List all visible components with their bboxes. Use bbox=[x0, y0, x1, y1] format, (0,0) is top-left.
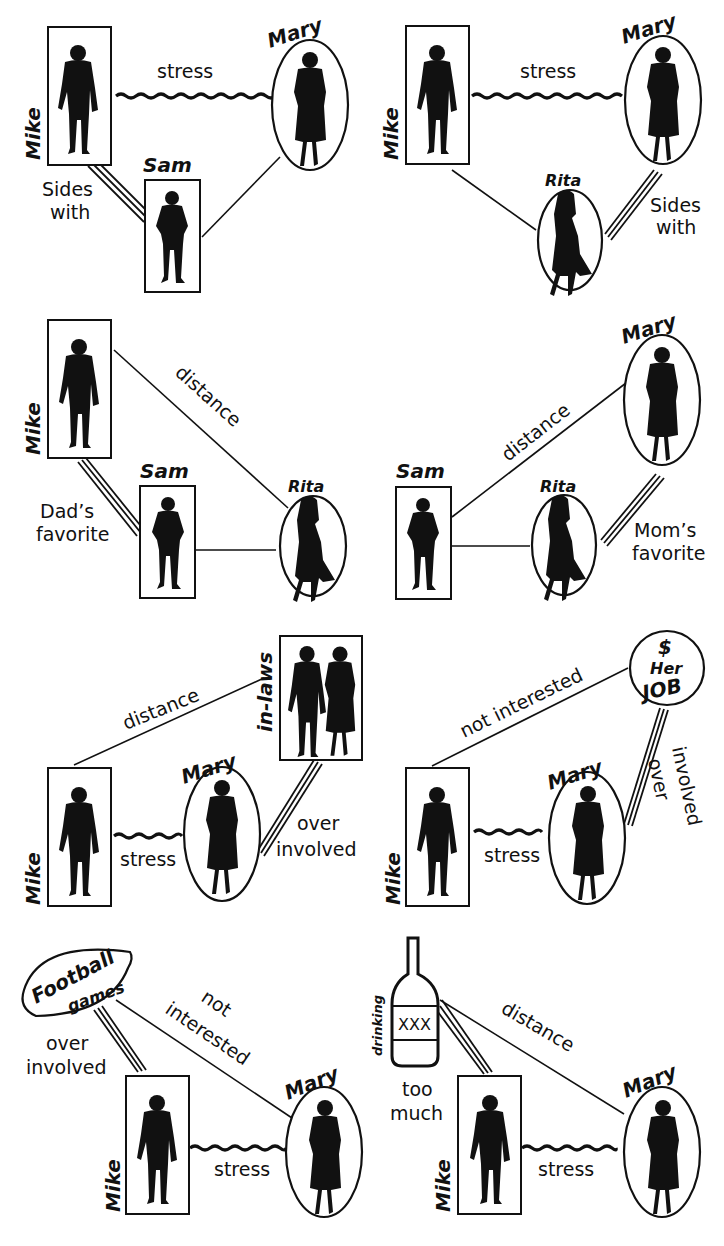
node-label-mike: Mike bbox=[21, 402, 45, 455]
stress-line bbox=[474, 830, 542, 834]
edge-label-stress: stress bbox=[520, 60, 576, 82]
edge-label-stress: stress bbox=[120, 848, 176, 870]
edge-label-line1: too bbox=[402, 1078, 433, 1100]
edge-label-distance: not interested bbox=[456, 663, 586, 741]
job-dollar-icon: $ bbox=[658, 635, 672, 659]
panel-3: distance Dad’s favorite Mike Sam Rita bbox=[21, 320, 346, 602]
panel-4: distance Mom’s favorite Mary Sam Rita bbox=[396, 308, 705, 601]
edge-label-line2: involved bbox=[26, 1056, 106, 1078]
panel-8: too much distance stress XXX drinking Mi… bbox=[370, 938, 700, 1217]
edge-label-distance: distance bbox=[498, 996, 579, 1055]
edge-label-line1: Dad’s bbox=[40, 500, 94, 522]
edge-label-stress: stress bbox=[538, 1158, 594, 1180]
edge-label-line1: Sides bbox=[42, 178, 93, 200]
edge-label-line2: much bbox=[390, 1102, 443, 1124]
edge-label-line2: with bbox=[656, 216, 696, 238]
node-label-rita: Rita bbox=[540, 477, 576, 496]
node-label-drinking: drinking bbox=[370, 995, 385, 1056]
edge-label-line2: with bbox=[50, 201, 90, 223]
edge-label-line1: Sides bbox=[650, 194, 701, 216]
edge-label-line1: over bbox=[644, 756, 674, 802]
distance-line bbox=[452, 383, 626, 517]
edge-label-line2: favorite bbox=[36, 523, 109, 545]
node-label-mike: Mike bbox=[381, 852, 405, 905]
panel-7: over involved not interested stress Foot… bbox=[23, 944, 363, 1217]
panel-1: stress Sides with Mike Mary Sam bbox=[21, 12, 348, 292]
stress-line bbox=[116, 94, 276, 98]
node-label-rita: Rita bbox=[545, 171, 581, 190]
relationship-line bbox=[452, 170, 536, 230]
family-relationship-diagrams: stress Sides with Mike Mary Sam stress S… bbox=[0, 0, 724, 1246]
node-label-mike: Mike bbox=[101, 1159, 125, 1212]
node-label-sam: Sam bbox=[140, 459, 189, 483]
edge-label-line1: over bbox=[46, 1032, 89, 1054]
edge-label-stress: stress bbox=[214, 1158, 270, 1180]
edge-label-line1: over bbox=[297, 812, 340, 834]
stress-line bbox=[190, 1146, 286, 1150]
bottle-label: XXX bbox=[398, 1015, 431, 1034]
stress-line bbox=[522, 1146, 616, 1150]
overinvolved-line bbox=[438, 1000, 492, 1074]
node-label-mike: Mike bbox=[21, 852, 45, 905]
edge-label-line2: favorite bbox=[632, 542, 705, 564]
edge-label-stress: stress bbox=[157, 60, 213, 82]
node-label-inlaws: in-laws bbox=[253, 652, 277, 732]
edge-label-stress: stress bbox=[484, 844, 540, 866]
stress-line bbox=[114, 834, 182, 838]
node-label-sam: Sam bbox=[396, 459, 445, 483]
node-label-mike: Mike bbox=[21, 107, 45, 160]
distance-line bbox=[432, 668, 628, 766]
edge-label-distance: distance bbox=[171, 361, 246, 431]
relationship-line bbox=[202, 157, 280, 237]
node-label-sam: Sam bbox=[143, 153, 192, 177]
node-label-mike: Mike bbox=[431, 1159, 455, 1212]
panel-6: not interested stress over involved Mike… bbox=[381, 631, 706, 906]
panel-2: stress Sides with Mike Mary Rita bbox=[379, 8, 701, 296]
node-label-rita: Rita bbox=[288, 477, 324, 496]
stress-line bbox=[472, 94, 622, 98]
edge-label-line1: Mom’s bbox=[634, 519, 696, 541]
edge-label-line1: not bbox=[198, 985, 236, 1021]
distance-line bbox=[74, 678, 264, 765]
bottle-icon bbox=[392, 938, 438, 1066]
node-label-mike: Mike bbox=[379, 107, 403, 160]
edge-label-line2: involved bbox=[276, 838, 356, 860]
edge-label-line2: involved bbox=[668, 744, 706, 827]
alliance-line bbox=[88, 160, 150, 222]
panel-5: distance stress over involved Mike Mary … bbox=[21, 636, 362, 906]
